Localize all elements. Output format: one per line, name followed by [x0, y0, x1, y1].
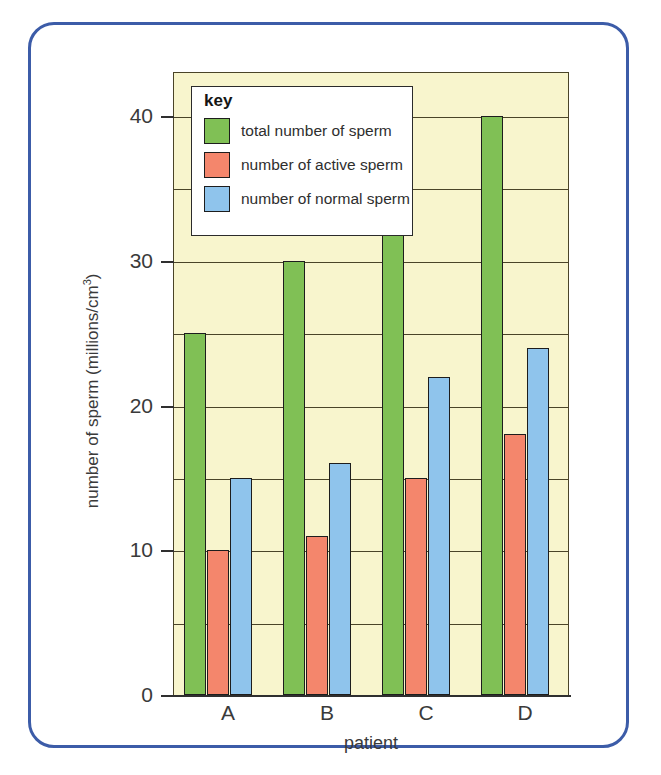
- red-swatch-icon: [204, 152, 230, 178]
- bar-c-active: [405, 478, 427, 695]
- x-axis-tick-label-a: A: [198, 701, 258, 725]
- y-axis-title-superscript: 3: [81, 279, 93, 285]
- blue-swatch-icon: [204, 186, 230, 212]
- bar-a-normal: [230, 478, 252, 695]
- y-axis-title: number of sperm (millions/cm3): [81, 191, 103, 591]
- bar-d-active: [504, 434, 526, 695]
- legend-item-0: total number of sperm: [204, 114, 412, 148]
- y-axis-tick-label: 40: [109, 105, 153, 126]
- figure-frame: 010203040 number of sperm (millions/cm3)…: [28, 22, 629, 748]
- legend-rows: total number of spermnumber of active sp…: [204, 114, 412, 216]
- legend-item-label: total number of sperm: [241, 122, 392, 140]
- legend-item-label: number of active sperm: [241, 156, 403, 174]
- bar-a-active: [207, 550, 229, 695]
- bar-d-normal: [527, 348, 549, 695]
- legend: key total number of spermnumber of activ…: [191, 86, 413, 236]
- y-axis-tick-label: 0: [109, 684, 153, 705]
- y-axis-tick-label: 20: [109, 395, 153, 416]
- legend-title: key: [204, 92, 412, 111]
- y-axis-tick: [161, 406, 174, 408]
- y-axis-tick: [161, 116, 174, 118]
- x-axis-tick-label-b: B: [297, 701, 357, 725]
- y-axis-tick: [161, 261, 174, 263]
- bar-b-total: [283, 261, 305, 695]
- y-axis-tick: [161, 695, 174, 697]
- bar-chart: 010203040 number of sperm (millions/cm3)…: [31, 25, 626, 745]
- bar-c-normal: [428, 377, 450, 695]
- bar-d-total: [481, 116, 503, 695]
- y-axis-line: [173, 72, 174, 695]
- green-swatch-icon: [204, 118, 230, 144]
- legend-item-2: number of normal sperm: [204, 182, 412, 216]
- y-axis-tick-label: 30: [109, 250, 153, 271]
- y-axis-tick-label: 10: [109, 539, 153, 560]
- bar-c-total: [382, 188, 404, 695]
- legend-item-1: number of active sperm: [204, 148, 412, 182]
- bar-b-normal: [329, 463, 351, 695]
- gridline: [174, 407, 568, 408]
- x-axis-tick-label-d: D: [495, 701, 555, 725]
- y-axis-title-text: number of sperm (millions/cm: [83, 285, 102, 508]
- y-axis-tick: [161, 550, 174, 552]
- bar-a-total: [184, 333, 206, 695]
- legend-item-label: number of normal sperm: [241, 190, 410, 208]
- gridline: [174, 334, 568, 335]
- gridline: [174, 262, 568, 263]
- x-axis-title: patient: [173, 733, 569, 754]
- y-axis-title-suffix: ): [83, 273, 102, 279]
- bar-b-active: [306, 536, 328, 695]
- x-axis-tick-label-c: C: [396, 701, 456, 725]
- x-axis-line: [161, 695, 571, 697]
